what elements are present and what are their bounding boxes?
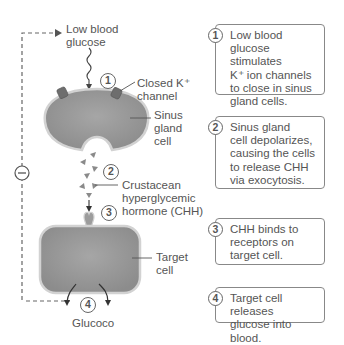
closed-k-channel-label: Closed K⁺ channel [137,77,190,103]
feedback-arrowhead-icon [55,29,62,37]
label-line: Target [156,251,188,264]
step-box-1: 1 Low blood glucose stimulates K⁺ ion ch… [215,24,325,95]
marker-4: 4 [80,297,96,313]
step-number: 4 [208,291,223,306]
label-line: cell [154,135,183,148]
marker-2: 2 [103,164,119,180]
label-line: gland [154,122,183,135]
chh-label: Crustacean hyperglycemic hormone (CHH) [122,179,203,218]
label-line: channel [137,90,190,103]
target-cell-shape [40,226,140,293]
label-line: hormone (CHH) [122,205,203,218]
step-text-line: gland cells. [230,95,320,108]
step-box-3: 3 CHH binds to receptors on target cell. [215,218,325,265]
target-cell-label: Target cell [156,251,188,277]
step-number: 3 [208,222,223,237]
label-line: Sinus [154,109,183,122]
step-text-line: CHH binds to [230,223,320,236]
step-text-line: glucose stimulates [230,42,320,68]
step-text-line: target cell. [230,249,320,262]
chh-hormone-particles [79,152,98,198]
step-text-line: cell depolarizes, [230,134,320,147]
step-text-line: K⁺ ion channels [230,69,320,82]
glucose-output-label: Glucoco [72,317,114,330]
label-line: cell [156,264,188,277]
step-text-line: causing the cells [230,147,320,160]
step-box-2: 2 Sinus gland cell depolarizes, causing … [215,116,325,189]
label-line: Low blood [66,23,118,36]
low-blood-glucose-label: Low blood glucose [66,23,118,49]
step-text-line: Sinus gland [230,121,320,134]
step-text-line: via exocytosis. [230,174,320,187]
step-text-line: Target cell releases [230,292,320,318]
step-text-line: to close in sinus [230,82,320,95]
marker-1: 1 [100,73,116,89]
step-text-line: receptors on [230,236,320,249]
step-text-line: to release CHH [230,161,320,174]
label-line: Closed K⁺ [137,77,190,90]
label-line: Crustacean [122,179,203,192]
label-line: glucose [66,36,118,49]
step-box-4: 4 Target cell releases glucose into bloo… [215,287,325,323]
step-number: 2 [208,120,223,135]
step-text-line: glucose into blood. [230,318,320,344]
marker-3: 3 [101,205,117,221]
stimulus-arrow [87,48,91,86]
label-line: hyperglycemic [122,192,203,205]
step-text-line: Low blood [230,29,320,42]
step-number: 1 [208,28,223,43]
sinus-gland-cell-label: Sinus gland cell [154,109,183,148]
